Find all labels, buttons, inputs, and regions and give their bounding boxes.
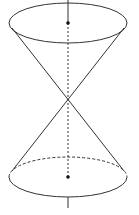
bottom-base-front: [9, 177, 127, 197]
top-center-dot: [66, 21, 70, 25]
double-cone-diagram: [0, 0, 139, 215]
bottom-center-dot: [66, 175, 70, 179]
